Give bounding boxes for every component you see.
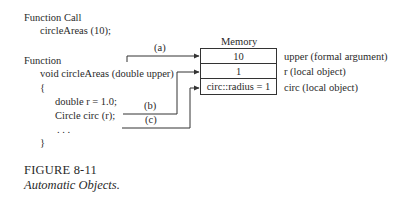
figure-title: Automatic Objects. [24, 178, 120, 193]
memory-cell-circ: circ::radius = 1 [200, 78, 277, 95]
arrow-label-c: (c) [145, 114, 157, 126]
function-signature: void circleAreas (double upper) [40, 68, 174, 80]
memory-label-circ: circ (local object) [284, 82, 358, 94]
arrow-label-a: (a) [154, 42, 166, 54]
code-line-circle-circ: Circle circ (r); [55, 110, 115, 122]
figure-number: FIGURE 8-11 [24, 163, 97, 178]
close-brace: } [40, 137, 45, 149]
code-ellipsis: . . . [57, 124, 70, 136]
code-line-double-r: double r = 1.0; [55, 96, 117, 108]
function-call-label: Function Call [24, 12, 81, 24]
memory-title: Memory [221, 36, 257, 48]
memory-cell-upper: 10 [200, 48, 277, 64]
function-label: Function [24, 55, 61, 67]
memory-label-r: r (local object) [284, 66, 346, 78]
function-call-statement: circleAreas (10); [40, 25, 111, 37]
memory-label-upper: upper (formal argument) [284, 51, 388, 63]
memory-cell-r: 1 [200, 63, 277, 79]
arrow-label-b: (b) [144, 100, 156, 112]
open-brace: { [40, 82, 45, 94]
